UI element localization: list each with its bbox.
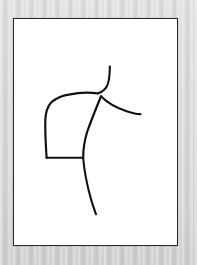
leg-line [83,158,96,215]
front-contour-line [83,96,101,157]
shoulder-line [55,93,97,100]
arm-line [101,96,141,114]
image-scene [0,0,197,265]
back-contour-line [45,99,55,157]
line-drawing-artwork [14,19,177,245]
neck-line [98,67,110,94]
artwork-frame [13,18,178,246]
ink-stroke-group [45,67,140,215]
